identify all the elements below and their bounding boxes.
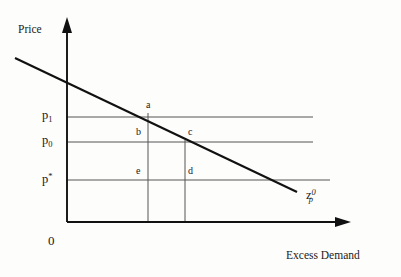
diagram-canvas (0, 0, 401, 277)
price-label-p0: p0 (42, 134, 53, 148)
price-label-pstar-superscript: * (48, 171, 52, 181)
point-label-b: b (136, 127, 141, 137)
price-axis-label: Price (18, 24, 42, 36)
point-label-a: a (146, 100, 150, 110)
price-label-p1-subscript: 1 (48, 114, 52, 124)
price-axis-arrowhead (62, 17, 72, 33)
point-label-e: e (136, 166, 140, 176)
curve-label-z: z0p (306, 188, 313, 203)
price-label-p1: p1 (42, 109, 53, 123)
excess-demand-axis-label: Excess Demand (286, 250, 360, 262)
point-label-d: d (188, 166, 193, 176)
curve-label-subscript: p (309, 194, 313, 204)
excess-demand-diagram: Price Excess Demand 0 p1 p0 p* a b c d e… (0, 0, 401, 277)
excess-demand-axis-arrowhead (335, 217, 351, 227)
excess-demand-curve (15, 58, 297, 192)
price-label-pstar: p* (42, 172, 53, 185)
origin-label: 0 (48, 234, 55, 247)
price-label-p0-subscript: 0 (48, 139, 52, 149)
point-label-c: c (188, 127, 192, 137)
